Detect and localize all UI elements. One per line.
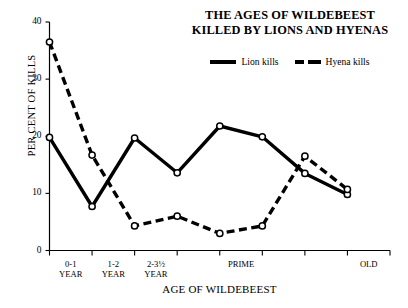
- x-axis-tick-label: 2-3½ YEAR: [128, 259, 184, 280]
- data-point-marker: [217, 230, 223, 236]
- data-point-marker: [89, 152, 95, 158]
- y-axis-tick-label: 40: [16, 16, 42, 26]
- data-point-marker: [217, 123, 223, 129]
- y-axis-tick-label: 30: [16, 73, 42, 83]
- data-point-marker: [46, 39, 52, 45]
- x-axis-tick-label: PRIME: [213, 259, 269, 270]
- data-point-marker: [259, 134, 265, 140]
- wildebeest-kills-chart: THE AGES OF WILDEBEEST KILLED BY LIONS A…: [0, 0, 408, 308]
- data-point-marker: [132, 223, 138, 229]
- data-point-marker: [89, 203, 95, 209]
- data-point-marker: [344, 186, 350, 192]
- data-point-marker: [132, 135, 138, 141]
- data-point-marker: [302, 153, 308, 159]
- series-line-lion-kills: [50, 126, 348, 207]
- y-axis-tick-label: 20: [16, 130, 42, 140]
- y-axis-tick-label: 0: [16, 245, 42, 255]
- y-axis-tick-label: 10: [16, 187, 42, 197]
- data-point-marker: [174, 170, 180, 176]
- axis-ticks: [46, 22, 391, 256]
- data-point-marker: [302, 170, 308, 176]
- data-series: [46, 39, 350, 237]
- data-point-marker: [46, 134, 52, 140]
- axes: [50, 22, 391, 251]
- data-point-marker: [174, 213, 180, 219]
- x-axis-tick-label: OLD: [341, 259, 397, 270]
- data-point-marker: [259, 223, 265, 229]
